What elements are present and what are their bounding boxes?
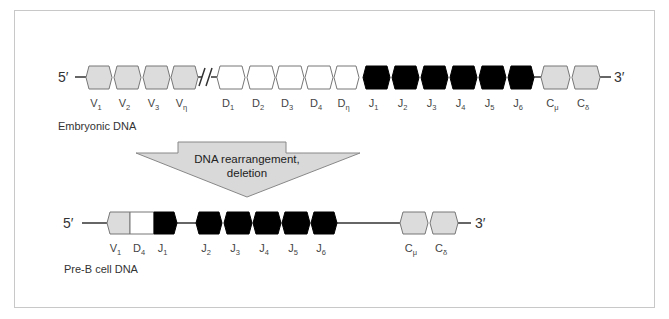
embryonic-segment-label: Dη — [337, 97, 349, 112]
embryonic-segment-j4 — [450, 66, 477, 89]
preb-segment-j3 — [224, 212, 252, 234]
embryonic-segment-d1 — [217, 66, 245, 89]
embryonic-segment-label: J3 — [427, 97, 437, 112]
embryonic-segment-label: V1 — [90, 97, 102, 112]
preb-segment-j4 — [253, 212, 281, 234]
embryonic-segment-j5 — [479, 66, 506, 89]
preb-segment-label: J2 — [201, 242, 211, 257]
embryonic-segment-d4 — [305, 66, 333, 89]
preb-segment-label: J6 — [316, 242, 326, 257]
rearrangement-arrow: DNA rearrangement, deletion — [136, 142, 360, 197]
preb-segment-cμ — [400, 212, 428, 234]
embryonic-segment-label: J1 — [369, 97, 379, 112]
embryonic-segment-v3 — [143, 66, 170, 89]
embryonic-segment-cδ — [572, 66, 600, 89]
preb-segment-labels: V1D4J1J2J3J4J5J6CμCδ — [110, 242, 447, 257]
preb-segment-d4 — [130, 212, 154, 234]
embryonic-segment-label: Vη — [176, 97, 188, 112]
preb-dna-title: Pre-B cell DNA — [64, 263, 139, 275]
embryonic-segment-j1 — [363, 66, 390, 89]
preb-segment-cδ — [430, 212, 458, 234]
preb-segment-j2 — [196, 212, 222, 234]
embryonic-segment-labels: V1V2V3VηD1D2D3D4DηJ1J2J3J4J5J6CμCδ — [90, 97, 589, 112]
preb-segment-j5 — [282, 212, 310, 234]
embryonic-segment-d3 — [276, 66, 304, 89]
embryonic-segment-label: V3 — [148, 97, 160, 112]
vdj-rearrangement-diagram: 5′ V1V2V3VηD1D2D3D4DηJ1J2J3J4J5J6CμCδ 3′… — [0, 0, 669, 319]
embryonic-segment-label: V2 — [119, 97, 131, 112]
embryonic-dna-row: 5′ V1V2V3VηD1D2D3D4DηJ1J2J3J4J5J6CμCδ 3′… — [58, 66, 625, 132]
preb-three-prime-label: 3′ — [475, 215, 486, 231]
embryonic-segment-dη — [334, 66, 359, 89]
embryonic-segment-j6 — [508, 66, 534, 89]
preb-segment-j6 — [311, 212, 337, 234]
arrow-text-line-1: DNA rearrangement, — [194, 153, 299, 165]
embryonic-segment-vη — [171, 66, 198, 89]
embryonic-segment-label: J6 — [513, 97, 523, 112]
preb-segment-j1 — [154, 212, 177, 234]
embryonic-segment-cμ — [541, 66, 570, 89]
embryonic-segment-label: J5 — [485, 97, 495, 112]
embryonic-segment-j2 — [392, 66, 419, 89]
embryonic-segment-d2 — [247, 66, 275, 89]
preb-segment-label: D4 — [133, 242, 145, 257]
preb-segment-label: J3 — [230, 242, 240, 257]
preb-five-prime-label: 5′ — [63, 215, 74, 231]
preb-segment-label: V1 — [110, 242, 122, 257]
preb-segment-label: J4 — [259, 242, 269, 257]
preb-segment-v1 — [107, 212, 130, 234]
preb-segments — [107, 212, 458, 234]
preb-segment-label: J5 — [288, 242, 298, 257]
embryonic-segment-j3 — [421, 66, 448, 89]
embryonic-segment-label: D2 — [252, 97, 264, 112]
embryonic-segments — [86, 66, 600, 89]
embryonic-segment-label: J4 — [456, 97, 466, 112]
embryonic-segment-label: Cμ — [546, 97, 558, 112]
embryonic-three-prime-label: 3′ — [614, 69, 625, 85]
embryonic-segment-label: D1 — [222, 97, 234, 112]
embryonic-dna-title: Embryonic DNA — [58, 120, 137, 132]
embryonic-segment-label: D4 — [310, 97, 322, 112]
embryonic-segment-label: J2 — [398, 97, 408, 112]
preb-dna-row: 5′ V1D4J1J2J3J4J5J6CμCδ 3′ Pre-B cell DN… — [63, 212, 486, 275]
preb-segment-label: Cδ — [435, 242, 447, 257]
embryonic-segment-label: D3 — [281, 97, 293, 112]
preb-segment-label: Cμ — [405, 242, 417, 257]
embryonic-segment-v1 — [86, 66, 112, 89]
embryonic-five-prime-label: 5′ — [58, 69, 69, 85]
arrow-text-line-2: deletion — [227, 167, 267, 179]
preb-segment-label: J1 — [158, 242, 168, 257]
embryonic-segment-v2 — [114, 66, 141, 89]
embryonic-segment-label: Cδ — [577, 97, 589, 112]
